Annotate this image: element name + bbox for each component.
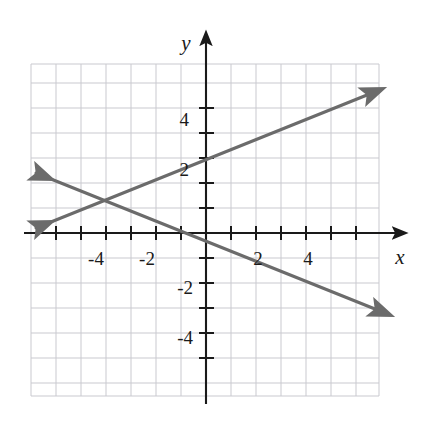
coordinate-plane-svg: -4 -2 2 4 4 2 -2 -4 y x bbox=[0, 0, 428, 421]
x-tick-label-4: 4 bbox=[303, 248, 313, 269]
y-tick-label--4: -4 bbox=[177, 327, 193, 348]
y-tick-label-4: 4 bbox=[180, 109, 190, 130]
graph-figure: -4 -2 2 4 4 2 -2 -4 y x bbox=[0, 0, 428, 421]
y-tick-label-2: 2 bbox=[180, 159, 190, 180]
y-tick-label--2: -2 bbox=[177, 277, 193, 298]
x-tick-label--2: -2 bbox=[139, 248, 155, 269]
x-tick-label--4: -4 bbox=[88, 248, 104, 269]
y-axis-label: y bbox=[179, 31, 191, 55]
x-tick-label-2: 2 bbox=[253, 248, 263, 269]
x-axis-label: x bbox=[394, 245, 405, 269]
